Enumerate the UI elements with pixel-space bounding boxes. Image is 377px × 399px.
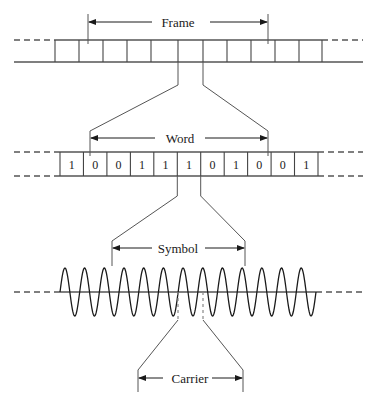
symbol-label: Symbol bbox=[158, 241, 199, 256]
word-bit: 0 bbox=[256, 158, 262, 172]
connector-right-word-symbol bbox=[201, 176, 245, 241]
word-bit: 0 bbox=[280, 158, 286, 172]
word-bit: 0 bbox=[92, 158, 98, 172]
carrier-measure-group: Carrier bbox=[138, 370, 243, 392]
connector-right-frame-word bbox=[203, 62, 268, 131]
connector-right-wave-carrier bbox=[203, 320, 243, 370]
frame-to-word-connectors bbox=[90, 62, 268, 131]
word-bit: 0 bbox=[116, 158, 122, 172]
word-label: Word bbox=[166, 131, 195, 146]
carrier-waveform-group bbox=[14, 268, 363, 316]
word-bit: 1 bbox=[69, 158, 75, 172]
frame-row bbox=[14, 40, 363, 62]
connector-left-wave-carrier bbox=[138, 320, 178, 370]
diagram-canvas: Frame bbox=[0, 0, 377, 399]
wave-to-carrier-connectors bbox=[138, 292, 243, 370]
connector-left-word-symbol bbox=[112, 176, 177, 241]
symbol-measure-group: Symbol bbox=[112, 241, 245, 266]
word-bit: 1 bbox=[139, 158, 145, 172]
word-to-symbol-connectors bbox=[112, 176, 245, 241]
frame-label: Frame bbox=[161, 15, 194, 30]
connector-left-frame-word bbox=[90, 62, 178, 131]
word-row: 1 0 0 1 1 1 0 1 0 0 1 bbox=[14, 152, 363, 176]
carrier-label: Carrier bbox=[172, 371, 209, 386]
word-bit: 0 bbox=[209, 158, 215, 172]
word-bit: 1 bbox=[303, 158, 309, 172]
word-bit: 1 bbox=[186, 158, 192, 172]
frame-word-symbol-carrier-diagram: Frame bbox=[0, 0, 377, 399]
word-bit: 1 bbox=[233, 158, 239, 172]
word-bit: 1 bbox=[163, 158, 169, 172]
